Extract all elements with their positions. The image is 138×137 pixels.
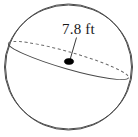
diameter-label: 7.8 ft xyxy=(62,21,95,38)
center-point-dot xyxy=(64,59,73,65)
sphere-figure: 7.8 ft xyxy=(0,0,138,137)
equator-back-dashed-arc xyxy=(8,35,131,78)
leader-line xyxy=(70,38,77,61)
